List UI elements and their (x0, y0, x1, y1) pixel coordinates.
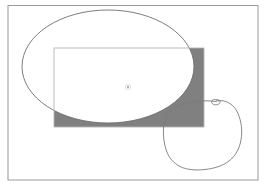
shaded-region-fill (54, 48, 204, 127)
shaded-difference-region (54, 48, 204, 127)
center-point-dot (127, 86, 129, 88)
geometry-figure-canvas: Region bounded by a rectangle and an ell… (0, 0, 267, 187)
